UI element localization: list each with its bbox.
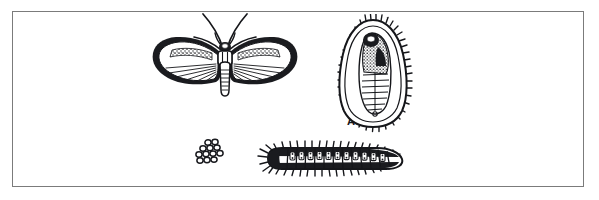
moth-eggs-cluster-icon: [186, 138, 228, 170]
stage-eggs: Eggs: [186, 138, 228, 170]
moth-larva-caterpillar-icon: [252, 140, 417, 180]
stage-adult: Adult: [150, 12, 300, 104]
moth-adult-icon: [150, 12, 300, 104]
stage-pupa: Pupa: [328, 14, 418, 136]
moth-pupa-cocoon-icon: [328, 14, 418, 136]
life-cycle-figure: Adult: [0, 0, 599, 200]
stage-larva: Larva: [252, 140, 417, 180]
